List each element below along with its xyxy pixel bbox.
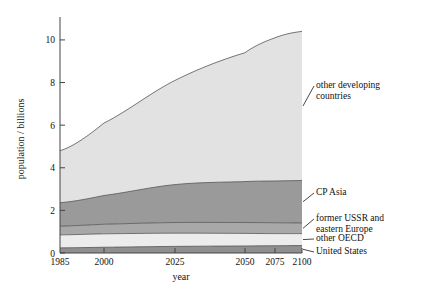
legend-leader-line — [303, 193, 314, 202]
legend-leader-line — [303, 86, 314, 106]
y-tick-label: 2 — [50, 206, 55, 216]
legend-leader-line — [303, 249, 314, 252]
legend-leader-lines — [303, 86, 314, 252]
legend-label-other-oecd: other OECD — [316, 233, 364, 244]
x-tick-label: 2050 — [236, 257, 255, 267]
legend-label-former-ussr: former USSR and eastern Europe — [316, 213, 384, 234]
y-tick-label: 6 — [50, 121, 55, 131]
y-tick-label: 8 — [50, 78, 55, 88]
legend-label-cp-asia: CP Asia — [316, 187, 347, 198]
legend-label-other-developing: other developing countries — [316, 80, 380, 101]
x-tick-label: 2075 — [266, 257, 285, 267]
population-projection-chart: 0246810 198520002025205020752100 populat… — [0, 0, 430, 295]
legend-leader-line — [303, 239, 314, 240]
x-tick-label: 1985 — [51, 257, 70, 267]
x-tick-label: 2100 — [293, 257, 312, 267]
x-tick-label: 2025 — [166, 257, 185, 267]
stacked-area-bands — [60, 31, 302, 253]
legend-leader-line — [303, 219, 314, 228]
x-axis-title: year — [172, 271, 190, 282]
y-tick-label: 10 — [46, 35, 56, 45]
area-band-other-developing — [60, 31, 302, 202]
y-axis-title: population / billions — [15, 99, 26, 180]
legend-label-united-states: United States — [316, 246, 367, 257]
x-tick-label: 2000 — [95, 257, 114, 267]
y-tick-label: 4 — [50, 163, 55, 173]
